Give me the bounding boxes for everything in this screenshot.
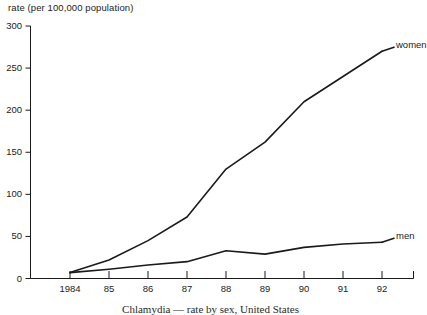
y-axis-tick-label: 150 (0, 146, 22, 157)
y-axis-ticks (26, 26, 31, 279)
x-axis-tick-label: 1984 (59, 283, 80, 294)
x-axis-tick-label: 90 (299, 283, 310, 294)
series-leader-men (382, 238, 394, 242)
series-leader-women (382, 47, 394, 51)
series-label-women: women (396, 39, 427, 50)
figure-caption: Chlamydia — rate by sex, United States (0, 303, 421, 315)
axis-lines (31, 26, 414, 279)
y-axis-tick-label: 0 (0, 273, 22, 284)
x-axis-tick-label: 89 (260, 283, 271, 294)
series-label-men: men (396, 230, 414, 241)
x-axis-tick-label: 92 (377, 283, 388, 294)
x-axis-tick-label: 86 (143, 283, 154, 294)
x-axis-tick-label: 87 (182, 283, 193, 294)
series-line-men (70, 242, 382, 272)
x-axis-tick-label: 88 (221, 283, 232, 294)
x-axis-tick-label: 91 (338, 283, 349, 294)
y-axis-tick-label: 50 (0, 230, 22, 241)
series-line-women (70, 51, 382, 272)
x-axis-ticks (70, 271, 382, 279)
y-axis-tick-label: 250 (0, 62, 22, 73)
x-axis-tick-label: 85 (104, 283, 115, 294)
y-axis-tick-label: 100 (0, 188, 22, 199)
y-axis-tick-label: 300 (0, 20, 22, 31)
y-axis-tick-label: 200 (0, 104, 22, 115)
series-lines (70, 47, 394, 272)
y-axis-title: rate (per 100,000 population) (8, 2, 133, 13)
